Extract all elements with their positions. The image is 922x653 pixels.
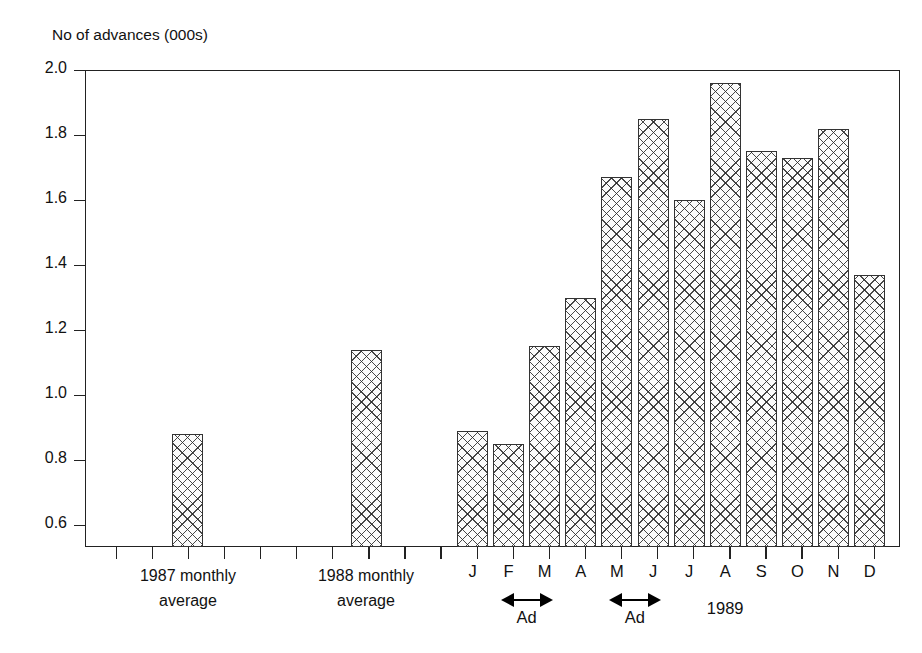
x-axis-tick [332, 547, 333, 559]
arrow-head-right-icon [540, 593, 553, 607]
x-axis-tick [513, 547, 514, 559]
x-axis-label-line: average [140, 588, 236, 613]
y-tick-mark [74, 200, 85, 201]
y-axis-tick: 1.8 [0, 135, 85, 136]
x-axis-label-month-n-10: N [828, 562, 840, 581]
x-axis-label-month-j-5: J [649, 562, 657, 581]
bar-1989-j-6 [674, 200, 705, 547]
y-axis-tick: 2.0 [0, 70, 85, 71]
bar-1989-m-4 [601, 177, 632, 547]
x-axis-tick [621, 547, 622, 559]
y-tick-mark [74, 330, 85, 331]
bar-1989-m-2 [529, 346, 560, 547]
y-tick-mark [74, 525, 85, 526]
x-axis-label-month-a-3: A [575, 562, 586, 581]
x-axis-tick [585, 547, 586, 559]
x-axis-tick [549, 547, 550, 559]
y-tick-label: 1.8 [45, 124, 67, 142]
x-axis-label-1987: 1987 monthlyaverage [140, 563, 236, 613]
bar-1989-n-10 [818, 129, 849, 548]
y-tick-label: 1.6 [45, 189, 67, 207]
x-axis-label-line: 1988 monthly [318, 563, 414, 588]
bar-1989-o-9 [782, 158, 813, 547]
x-axis-tick [477, 547, 478, 559]
x-axis-tick [874, 547, 875, 559]
y-axis-title: No of advances (000s) [52, 26, 208, 44]
x-axis-label-1988: 1988 monthlyaverage [318, 563, 414, 613]
x-axis-tick [260, 547, 261, 559]
bar-1987-average [172, 434, 203, 547]
bar-1989-f-1 [493, 444, 524, 547]
arrow-head-right-icon [648, 593, 661, 607]
x-axis-tick [765, 547, 766, 559]
y-axis-tick: 1.2 [0, 330, 85, 331]
y-tick-label: 0.6 [45, 514, 67, 532]
x-axis-tick [152, 547, 153, 559]
x-axis-tick [693, 547, 694, 559]
x-axis-label-1989: 1989 [707, 599, 744, 618]
ad-annotation-2: Ad [609, 593, 661, 627]
y-tick-mark [74, 135, 85, 136]
x-axis-label-month-m-2: M [538, 562, 552, 581]
y-tick-mark [74, 460, 85, 461]
x-axis-label-line: 1987 monthly [140, 563, 236, 588]
y-tick-label: 1.4 [45, 254, 67, 272]
bar-1989-a-3 [565, 298, 596, 548]
bar-1989-j-5 [638, 119, 669, 547]
annotation-label: Ad [501, 608, 553, 627]
x-axis-label-month-d-11: D [864, 562, 876, 581]
arrow-head-left-icon [609, 593, 622, 607]
chart-page: No of advances (000s) 2.01.81.61.41.21.0… [0, 0, 922, 653]
y-axis-tick: 0.6 [0, 525, 85, 526]
annotation-label: Ad [609, 608, 661, 627]
y-axis-tick: 1.6 [0, 200, 85, 201]
x-axis-label-line: average [318, 588, 414, 613]
x-axis-label-month-j-6: J [685, 562, 693, 581]
y-axis-tick: 1.0 [0, 395, 85, 396]
x-axis-label-month-f-1: F [504, 562, 514, 581]
x-axis-tick [404, 547, 405, 559]
x-axis-tick [296, 547, 297, 559]
x-axis-tick [729, 547, 730, 559]
bar-1988-average [351, 350, 382, 548]
x-axis-label-month-s-8: S [756, 562, 767, 581]
x-axis-tick [368, 547, 369, 559]
y-tick-label: 1.0 [45, 384, 67, 402]
y-tick-mark [74, 70, 85, 71]
y-tick-label: 0.8 [45, 449, 67, 467]
x-axis-tick [838, 547, 839, 559]
double-arrow-icon [609, 593, 661, 607]
bar-1989-j-0 [457, 431, 488, 547]
arrow-head-left-icon [501, 593, 514, 607]
y-axis-tick: 1.4 [0, 265, 85, 266]
x-axis-label-month-o-9: O [791, 562, 804, 581]
y-tick-label: 1.2 [45, 319, 67, 337]
scan-artifact-text [86, 0, 866, 6]
x-axis-tick [440, 547, 441, 559]
y-tick-label: 2.0 [45, 59, 67, 77]
bar-1989-a-7 [710, 83, 741, 547]
x-axis-tick [657, 547, 658, 559]
x-axis-tick [188, 547, 189, 559]
x-axis-label-month-m-4: M [610, 562, 624, 581]
ad-annotation-1: Ad [501, 593, 553, 627]
bar-1989-s-8 [746, 151, 777, 547]
x-axis-tick [224, 547, 225, 559]
x-axis-label-month-a-7: A [720, 562, 731, 581]
x-axis-tick [801, 547, 802, 559]
y-tick-mark [74, 395, 85, 396]
y-axis-tick: 0.8 [0, 460, 85, 461]
x-axis-tick [116, 547, 117, 559]
double-arrow-icon [501, 593, 553, 607]
x-axis-label-month-j-0: J [468, 562, 476, 581]
y-tick-mark [74, 265, 85, 266]
bar-1989-d-11 [854, 275, 885, 547]
